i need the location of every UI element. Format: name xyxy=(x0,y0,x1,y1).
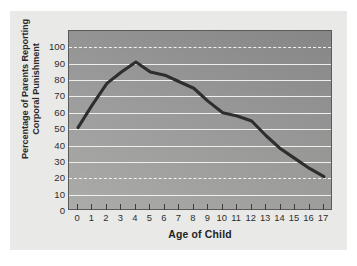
x-tick-mark-15 xyxy=(294,204,295,210)
x-tick-label-8: 8 xyxy=(190,212,195,223)
x-tick-label-3: 3 xyxy=(118,212,123,223)
x-tick-label-15: 15 xyxy=(289,212,299,223)
y-tick-label-0: 0 xyxy=(60,205,65,216)
x-axis-tick-labels: 01234567891011121314151617 xyxy=(68,212,332,226)
y-axis-tick-labels: 1009080706050403020100 xyxy=(40,30,65,210)
x-tick-label-17: 17 xyxy=(318,212,328,223)
x-tick-mark-0 xyxy=(77,204,78,210)
x-tick-mark-4 xyxy=(135,204,136,210)
x-tick-label-2: 2 xyxy=(103,212,108,223)
y-tick-label-90: 90 xyxy=(54,57,65,68)
x-tick-label-6: 6 xyxy=(161,212,166,223)
y-tick-label-10: 10 xyxy=(54,188,65,199)
x-tick-mark-1 xyxy=(91,204,92,210)
y-tick-label-60: 60 xyxy=(54,106,65,117)
y-tick-label-40: 40 xyxy=(54,139,65,150)
x-tick-mark-2 xyxy=(106,204,107,210)
x-tick-label-1: 1 xyxy=(89,212,94,223)
x-tick-label-4: 4 xyxy=(132,212,137,223)
x-tick-label-9: 9 xyxy=(205,212,210,223)
data-series-line xyxy=(69,31,332,210)
x-tick-mark-14 xyxy=(280,204,281,210)
x-tick-mark-7 xyxy=(178,204,179,210)
y-tick-label-100: 100 xyxy=(49,41,65,52)
x-tick-mark-5 xyxy=(149,204,150,210)
y-tick-label-80: 80 xyxy=(54,74,65,85)
x-tick-label-11: 11 xyxy=(231,212,241,223)
x-tick-mark-10 xyxy=(222,204,223,210)
x-tick-label-13: 13 xyxy=(260,212,270,223)
plot-area xyxy=(68,30,332,210)
x-tick-label-16: 16 xyxy=(303,212,313,223)
x-tick-mark-6 xyxy=(164,204,165,210)
x-tick-mark-8 xyxy=(193,204,194,210)
y-tick-label-20: 20 xyxy=(54,172,65,183)
x-tick-mark-3 xyxy=(120,204,121,210)
x-axis-tick-marks xyxy=(68,204,332,211)
x-tick-mark-16 xyxy=(309,204,310,210)
y-tick-label-70: 70 xyxy=(54,90,65,101)
y-tick-label-50: 50 xyxy=(54,123,65,134)
x-tick-label-14: 14 xyxy=(274,212,284,223)
x-tick-label-5: 5 xyxy=(147,212,152,223)
x-tick-label-7: 7 xyxy=(176,212,181,223)
x-axis-title: Age of Child xyxy=(68,229,332,240)
x-tick-mark-17 xyxy=(323,204,324,210)
x-tick-label-10: 10 xyxy=(216,212,226,223)
x-tick-mark-9 xyxy=(207,204,208,210)
x-tick-mark-13 xyxy=(265,204,266,210)
y-tick-label-30: 30 xyxy=(54,155,65,166)
x-tick-mark-12 xyxy=(251,204,252,210)
x-tick-label-0: 0 xyxy=(74,212,79,223)
x-tick-mark-11 xyxy=(236,204,237,210)
chart-figure: Percentage of Parents Reporting Corporal… xyxy=(0,0,357,266)
x-tick-label-12: 12 xyxy=(245,212,255,223)
